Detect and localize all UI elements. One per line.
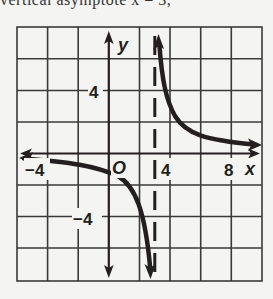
curve-right-branch bbox=[159, 45, 255, 145]
origin-label: O bbox=[112, 158, 126, 178]
y-tick-label-4: 4 bbox=[89, 83, 99, 102]
curve-arrowheads bbox=[19, 34, 262, 279]
x-tick-label-neg4: −4 bbox=[25, 161, 45, 180]
y-tick-label-neg4: −4 bbox=[73, 210, 93, 229]
graph: y x O −4 4 8 4 −4 bbox=[0, 0, 273, 299]
y-axis-label: y bbox=[117, 35, 129, 55]
x-tick-label-8: 8 bbox=[224, 161, 233, 180]
x-tick-label-4: 4 bbox=[161, 161, 171, 180]
x-axis-label: x bbox=[244, 159, 256, 179]
